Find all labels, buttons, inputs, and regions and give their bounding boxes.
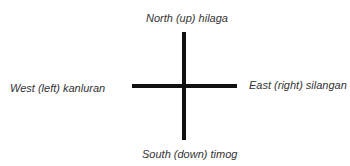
north-label: North (up) hilaga xyxy=(146,12,228,25)
horizontal-axis-line xyxy=(132,84,237,88)
east-label: East (right) silangan xyxy=(249,79,347,92)
south-label: South (down) timog xyxy=(142,148,237,161)
west-label: West (left) kanluran xyxy=(10,82,105,95)
